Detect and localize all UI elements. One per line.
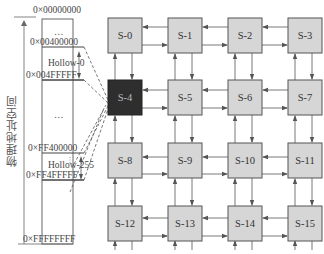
node-s3: S-3 xyxy=(288,18,322,53)
node-label: S-12 xyxy=(115,218,135,229)
addr-top: 0×00000000 xyxy=(33,5,81,15)
node-label: S-7 xyxy=(298,92,313,103)
node-label: S-6 xyxy=(238,92,253,103)
label-hollow255: Hollow-255 xyxy=(48,160,94,170)
node-s8: S-8 xyxy=(108,143,142,178)
physical-address-space-label: 物理地址空间 xyxy=(6,95,20,167)
node-label: S-5 xyxy=(178,92,193,103)
addr-bottom: 0×FFFFFFFF xyxy=(23,234,75,244)
ellipsis-2: … xyxy=(54,110,64,120)
node-label: S-1 xyxy=(178,30,193,41)
addr-hollow255-start: 0×FF400000 xyxy=(28,143,77,153)
node-label: S-14 xyxy=(235,218,256,229)
node-s14: S-14 xyxy=(228,206,262,241)
node-label: S-3 xyxy=(298,30,313,41)
node-label: S-15 xyxy=(295,218,315,229)
node-s9: S-9 xyxy=(168,143,202,178)
node-s13: S-13 xyxy=(168,206,202,241)
node-label: S-11 xyxy=(295,155,314,166)
node-s2: S-2 xyxy=(228,18,262,53)
node-s7: S-7 xyxy=(288,80,322,115)
node-label: S-13 xyxy=(175,218,195,229)
node-s0: S-0 xyxy=(108,18,142,53)
memory-column xyxy=(14,17,84,244)
addr-hollow255-end: 0×FF4FFFFF xyxy=(26,170,78,180)
mesh-memory-diagram: 0×00000000 0×00400000 Hollow-0 0×004FFFF… xyxy=(0,0,324,254)
node-s5: S-5 xyxy=(168,80,202,115)
label-hollow0: Hollow-0 xyxy=(48,58,85,68)
mesh-nodes: S-0 S-1 S-2 S-3 S-4 S-5 S-6 S-7 S-8 S-9 … xyxy=(108,18,322,241)
ellipsis-1: … xyxy=(54,27,64,37)
node-s10: S-10 xyxy=(228,143,262,178)
node-label: S-0 xyxy=(118,30,133,41)
node-s15: S-15 xyxy=(288,206,322,241)
node-s6: S-6 xyxy=(228,80,262,115)
node-s12: S-12 xyxy=(108,206,142,241)
addr-hollow0-end: 0×004FFFFF xyxy=(26,70,77,80)
node-s11: S-11 xyxy=(288,143,322,178)
node-label: S-9 xyxy=(178,155,193,166)
mesh-links xyxy=(115,27,312,250)
node-label: S-8 xyxy=(118,155,133,166)
node-s4-highlighted: S-4 xyxy=(108,80,142,115)
node-label: S-2 xyxy=(238,30,253,41)
node-s1: S-1 xyxy=(168,18,202,53)
addr-hollow0-start: 0×00400000 xyxy=(30,37,78,47)
node-label: S-10 xyxy=(235,155,255,166)
node-label: S-4 xyxy=(118,92,133,103)
